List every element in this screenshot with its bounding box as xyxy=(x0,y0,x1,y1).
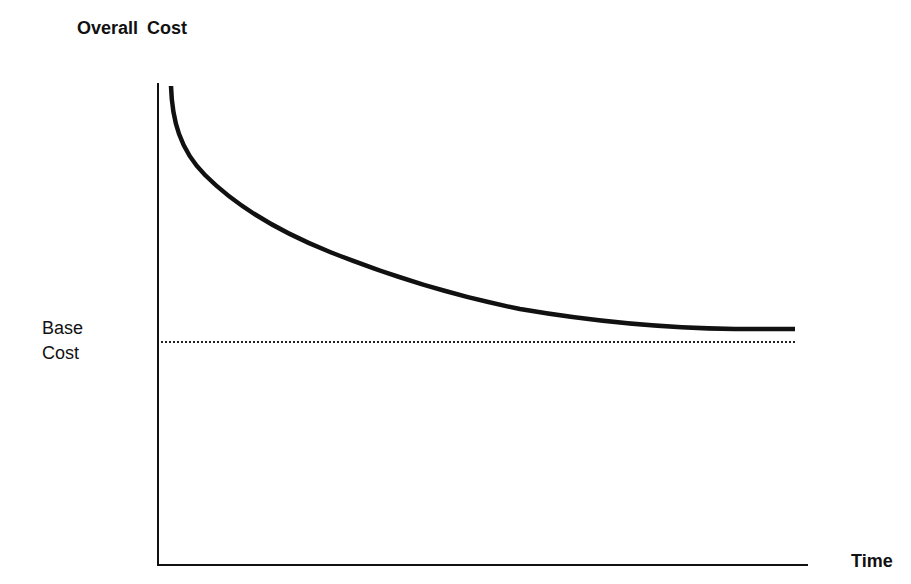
chart-plot-area xyxy=(0,0,911,584)
overall-cost-curve xyxy=(171,86,795,329)
